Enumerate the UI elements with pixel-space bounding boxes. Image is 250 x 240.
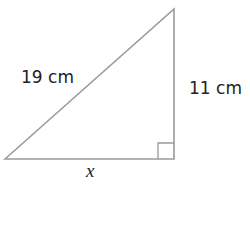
right-angle-marker bbox=[158, 143, 174, 159]
horizontal-leg-label: x bbox=[86, 160, 94, 182]
hypotenuse-label: 19 cm bbox=[21, 67, 74, 87]
vertical-leg-label: 11 cm bbox=[189, 78, 242, 98]
